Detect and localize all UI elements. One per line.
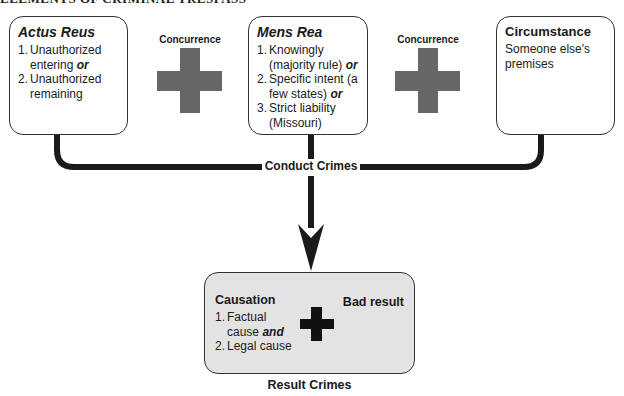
actus-reus-title: Actus Reus [18,24,119,40]
causation-list: 1. Factual cause and 2. Legal cause [215,310,295,354]
list-item: 1. Factual cause and [215,310,295,339]
mens-rea-list: 1. Knowingly (majority rule) or 2. Speci… [257,43,359,130]
bad-result-label: Bad result [343,295,404,309]
plus-icon [300,307,334,341]
list-item: 2. Legal cause [215,339,295,354]
arrow-head-icon [298,224,324,271]
circumstance-text: Someone else's premises [505,42,590,71]
list-item: 2. Specific intent (a few states) or [257,72,359,101]
concurrence-label-2: Concurrence [378,34,478,45]
list-item: 1. Unauthorized entering or [18,43,119,72]
result-crimes-label: Result Crimes [204,378,415,392]
actus-reus-box: Actus Reus 1. Unauthorized entering or 2… [9,16,128,135]
plus-icon [395,48,460,113]
circumstance-connector [356,135,541,167]
conduct-crimes-label: Conduct Crimes [262,159,360,173]
circumstance-box: Circumstance Someone else's premises [496,16,615,135]
list-item: 1. Knowingly (majority rule) or [257,43,359,72]
mens-rea-title: Mens Rea [257,24,359,40]
concurrence-label-1: Concurrence [140,34,240,45]
actus-reus-list: 1. Unauthorized entering or 2. Unauthori… [18,43,119,101]
list-item: 3. Strict liability (Missouri) [257,101,359,130]
actus-reus-connector [57,135,268,167]
plus-icon [157,48,222,113]
list-item: 2. Unauthorized remaining [18,72,119,101]
mens-rea-box: Mens Rea 1. Knowingly (majority rule) or… [248,16,368,135]
result-box: Causation 1. Factual cause and 2. Legal … [204,272,415,374]
circumstance-title: Circumstance [505,24,606,39]
